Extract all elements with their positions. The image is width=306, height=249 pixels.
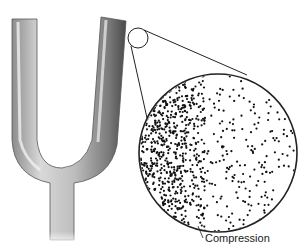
small-magnifier-circle xyxy=(128,28,148,48)
tuning-fork-illustration xyxy=(0,0,306,249)
compression-label: Compression xyxy=(205,232,270,244)
diagram-canvas: Compression xyxy=(0,0,306,249)
fork-body xyxy=(12,17,126,245)
particle-zoom-circle xyxy=(138,74,297,232)
